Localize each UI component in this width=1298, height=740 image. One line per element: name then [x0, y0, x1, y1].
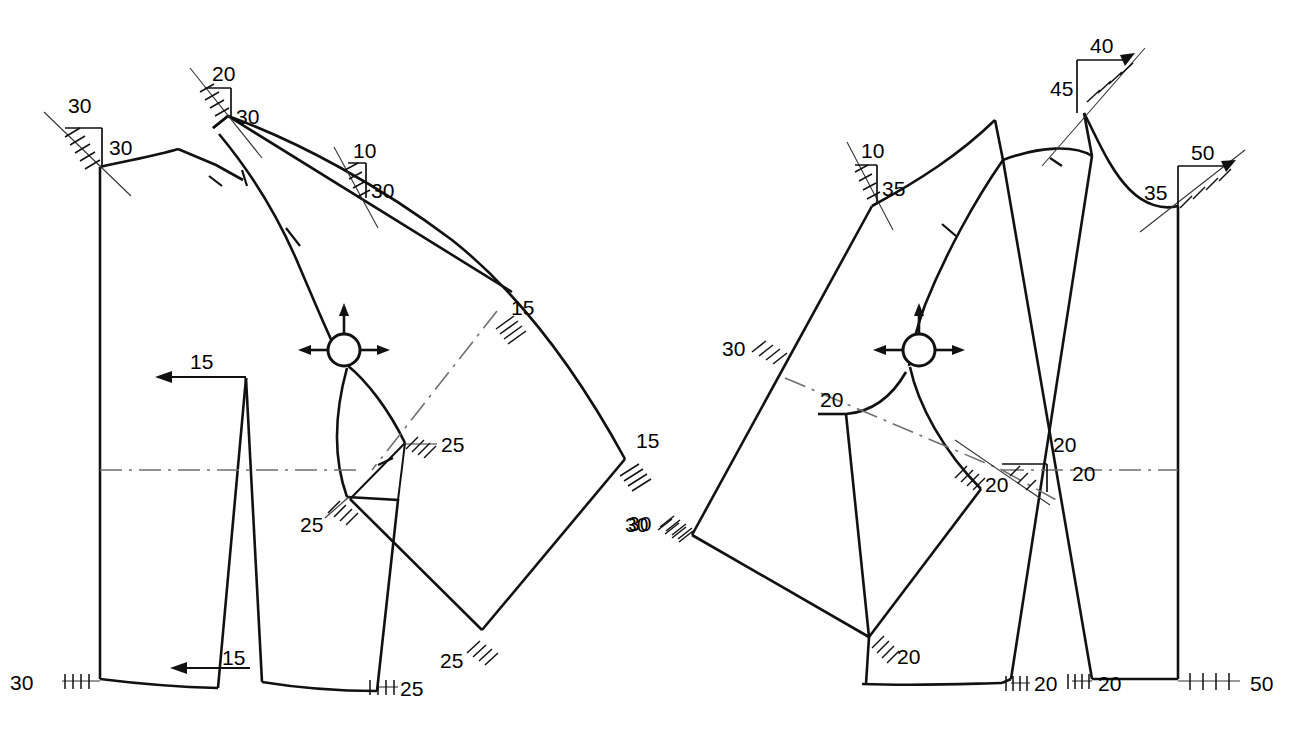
right-piece-group: 10 35 40 45 — [625, 34, 1273, 695]
notch-mark — [942, 224, 956, 236]
hatch-ticks — [496, 316, 526, 344]
left-front-dart-right — [246, 378, 262, 682]
hatch-ticks — [65, 128, 100, 169]
callout-R05-R06: 50 35 — [1140, 141, 1245, 232]
callout-L07: 15 — [496, 296, 534, 344]
callout-R07: 30 — [722, 337, 787, 364]
hatch-ticks — [620, 464, 651, 491]
annotation-label: 30 — [68, 94, 91, 117]
left-diagonal-centerline — [372, 311, 497, 470]
annotation-label: 15 — [190, 350, 213, 373]
left-piece-group: 30 30 20 30 10 — [10, 62, 692, 700]
grain-cross-symbol — [298, 303, 390, 366]
annotation-label: 25 — [300, 513, 323, 536]
annotation-label: 10 — [353, 139, 376, 162]
grain-arrowhead-right — [377, 345, 390, 355]
notch-mark — [209, 176, 222, 186]
annotation-label: 30 — [236, 105, 259, 128]
callout-L10: 25 — [404, 433, 464, 458]
grain-arrowhead-left — [873, 345, 886, 355]
pattern-drawing-canvas: 30 30 20 30 10 — [0, 0, 1298, 740]
callout-L09: 15 — [155, 350, 246, 383]
annotation-label: 20 — [1098, 672, 1121, 695]
annotation-label: 15 — [222, 646, 245, 669]
hatch-ticks — [406, 437, 436, 458]
annotation-label: 30 — [10, 671, 33, 694]
annotation-label: 10 — [861, 139, 884, 162]
dimension-arrowhead — [170, 662, 187, 674]
right-hem-left — [862, 683, 1002, 685]
right-panel-seam-curve — [869, 489, 981, 637]
notch-mark — [242, 170, 247, 186]
notch-mark — [1050, 158, 1062, 166]
left-sleeve-inner-seam — [398, 443, 405, 500]
grain-cross-symbol — [873, 303, 965, 366]
annotation-label: 30 — [371, 179, 394, 202]
left-sleeve-underarm-curve — [347, 365, 405, 443]
right-neckline-arc — [1003, 149, 1092, 160]
grain-circle — [903, 334, 935, 366]
left-hem-side — [262, 682, 377, 691]
left-sleeve-lower-edge — [350, 499, 482, 630]
annotation-label: 35 — [1144, 181, 1167, 204]
right-inner-vertical — [846, 414, 869, 637]
grain-arrowhead-up — [339, 303, 349, 316]
left-sleeve-cap-curve — [219, 134, 342, 362]
right-dart-lower-vertical — [866, 637, 869, 684]
left-front-dart — [218, 378, 246, 688]
callout-R13: 20 — [872, 636, 920, 668]
left-hem-front — [100, 679, 218, 688]
callout-R15: 20 — [1068, 672, 1121, 695]
annotation-label: 45 — [1050, 77, 1073, 100]
callout-L11: 25 — [300, 496, 358, 536]
annotation-label: 15 — [636, 429, 659, 452]
left-armhole-curve — [337, 368, 347, 497]
callout-R03-R04: 40 45 — [1042, 34, 1145, 166]
annotation-label: 35 — [882, 177, 905, 200]
annotation-label: 30 — [625, 513, 648, 536]
bracket — [1178, 166, 1227, 206]
callout-L16: 25 — [370, 677, 423, 700]
annotation-label: 20 — [1034, 672, 1057, 695]
annotation-label: 15 — [511, 296, 534, 319]
hatch-ticks — [328, 501, 358, 525]
annotation-label: 30 — [722, 337, 745, 360]
annotation-label: 25 — [440, 649, 463, 672]
callout-R01-R02: 10 35 — [847, 139, 905, 230]
annotation-label: 20 — [897, 645, 920, 668]
right-panel-seam-upper — [910, 367, 981, 489]
hatch-ticks — [1087, 63, 1133, 102]
right-diagonal-centerline — [785, 378, 1002, 470]
annotation-label: 25 — [400, 677, 423, 700]
annotation-label: 50 — [1191, 141, 1214, 164]
callout-R14: 20 — [1006, 672, 1057, 695]
callout-L13: 25 — [440, 641, 498, 672]
annotation-label: 20 — [985, 473, 1008, 496]
hatch-ticks — [752, 341, 787, 364]
annotation-label: 20 — [820, 388, 843, 411]
callout-L01-L02: 30 30 — [44, 94, 132, 196]
annotation-label: 40 — [1090, 34, 1113, 57]
annotation-label: 50 — [1250, 672, 1273, 695]
grain-arrowhead-right — [952, 345, 965, 355]
left-side-seam — [347, 497, 398, 691]
callout-R12: 30 — [625, 513, 693, 542]
hatch-ticks — [872, 636, 899, 663]
annotation-label: 30 — [109, 136, 132, 159]
pattern-drawing-svg: 30 30 20 30 10 — [0, 0, 1298, 740]
right-sleeve-top-edge — [995, 120, 1003, 160]
hatch-ticks — [1180, 169, 1231, 208]
right-side-seam — [692, 206, 872, 535]
dimension-arrowhead — [155, 371, 172, 383]
left-sleeve-underarm-line — [350, 443, 405, 499]
annotation-label: 25 — [441, 433, 464, 456]
callout-L15: 30 — [10, 671, 100, 694]
annotation-label: 20 — [1072, 462, 1095, 485]
left-sleeve-upper-seam — [213, 116, 228, 128]
callout-R16: 50 — [1178, 672, 1273, 695]
bracket — [1077, 60, 1126, 113]
grain-arrowhead-left — [298, 345, 311, 355]
hatch-ticks — [467, 641, 498, 665]
callout-L08: 15 — [620, 429, 659, 491]
right-side-lower-line — [692, 535, 869, 637]
